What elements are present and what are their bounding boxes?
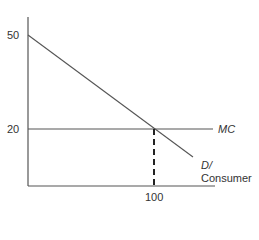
y-tick-20: 20 xyxy=(7,124,19,135)
y-tick-50: 50 xyxy=(7,30,19,41)
x-tick-100: 100 xyxy=(145,192,163,203)
demand-curve xyxy=(28,35,193,157)
demand-label: D/ xyxy=(201,160,212,171)
demand-consumer-label: Consumer xyxy=(201,173,252,184)
mc-label: MC xyxy=(218,124,235,135)
